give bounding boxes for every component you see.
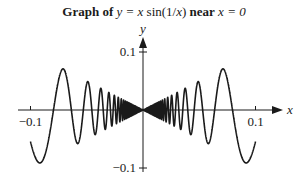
chart-canvas: x y −0.10.10.1−0.1 <box>0 0 308 182</box>
x-tick-label: −0.1 <box>19 114 43 129</box>
y-axis-label: y <box>138 21 146 36</box>
x-tick-label: 0.1 <box>247 114 263 129</box>
x-axis-label: x <box>286 102 293 117</box>
y-tick-label: −0.1 <box>112 160 136 175</box>
x-axis-arrowhead <box>272 106 283 114</box>
y-tick-label: 0.1 <box>120 44 136 59</box>
y-axis-arrowhead <box>139 37 147 48</box>
